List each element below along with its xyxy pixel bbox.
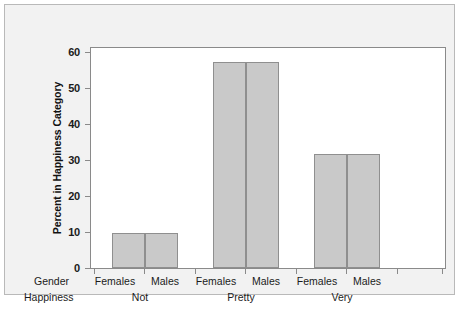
group-label-not: Not bbox=[132, 291, 148, 303]
bar-very-males bbox=[347, 154, 380, 268]
y-tick-label-10: 10 bbox=[68, 226, 80, 238]
group-not-males: Males bbox=[151, 275, 179, 287]
group-pretty-females: Females bbox=[196, 275, 236, 287]
group-pretty-males: Males bbox=[252, 275, 280, 287]
y-tick-label-60: 60 bbox=[68, 46, 80, 58]
bar-not-males bbox=[145, 233, 178, 268]
group-label-pretty: Pretty bbox=[227, 291, 254, 303]
bar-very-females bbox=[314, 154, 347, 268]
bar-pretty-males bbox=[246, 62, 279, 268]
bar-not-females bbox=[112, 233, 145, 268]
axis-key-gender: Gender bbox=[34, 275, 69, 287]
y-axis: 60 50 40 30 20 10 0 bbox=[5, 47, 90, 270]
y-tick-label-40: 40 bbox=[68, 118, 80, 130]
x-axis-labels: Gender Happiness Females Males Not Femal… bbox=[5, 273, 456, 309]
y-tick-label-50: 50 bbox=[68, 82, 80, 94]
y-tick-label-20: 20 bbox=[68, 190, 80, 202]
y-tick-label-30: 30 bbox=[68, 154, 80, 166]
chart-panel: Percent in Happiness Category 60 50 40 3… bbox=[4, 4, 455, 295]
bars-container bbox=[91, 48, 445, 268]
chart-figure: Percent in Happiness Category 60 50 40 3… bbox=[0, 0, 463, 309]
group-not-females: Females bbox=[95, 275, 135, 287]
plot-area bbox=[90, 47, 446, 269]
bar-pretty-females bbox=[213, 62, 246, 268]
group-label-very: Very bbox=[331, 291, 352, 303]
axis-key-happiness: Happiness bbox=[24, 291, 74, 303]
group-very-females: Females bbox=[297, 275, 337, 287]
group-very-males: Males bbox=[353, 275, 381, 287]
